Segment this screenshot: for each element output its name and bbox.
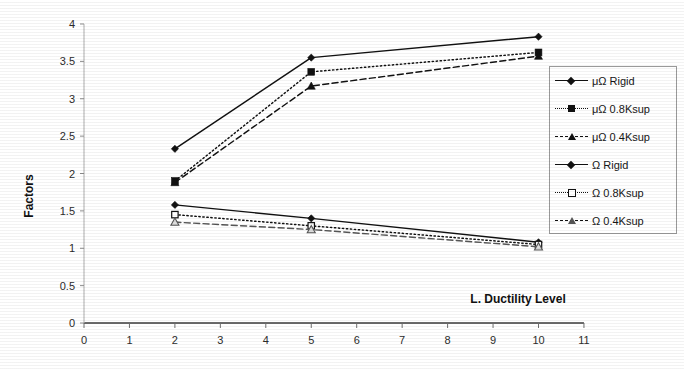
chart-series <box>171 201 542 246</box>
legend-swatch-solid-diamond-2 <box>555 159 588 171</box>
chart-series <box>171 52 543 186</box>
x-tick-label: 3 <box>217 334 223 346</box>
y-tick-label: 2 <box>69 168 75 180</box>
chart-series <box>171 33 542 152</box>
series-line <box>175 37 539 149</box>
legend-label: μΩ 0.4Ksup <box>592 131 650 143</box>
y-tick-label: 3.5 <box>60 55 75 67</box>
data-point-marker <box>171 201 178 208</box>
y-tick-label: 0 <box>69 317 75 329</box>
y-tick-label: 4 <box>69 18 75 30</box>
legend-item: Ω 0.4Ksup <box>550 207 676 235</box>
series-line <box>175 222 539 247</box>
x-tick-label: 11 <box>578 334 589 346</box>
x-tick-label: 7 <box>399 334 405 346</box>
legend-item: Ω 0.8Ksup <box>550 179 676 207</box>
legend-swatch-dashed-triangle-open <box>555 215 588 227</box>
x-tick-label: 1 <box>126 334 132 346</box>
data-point-marker <box>308 215 315 222</box>
legend-label: μΩ 0.8Ksup <box>592 103 650 115</box>
chart-series <box>172 49 542 184</box>
legend-item: μΩ 0.8Ksup <box>550 95 676 123</box>
chart-figure: 00.511.522.533.5401234567891011FactorsL.… <box>0 0 684 369</box>
x-tick-label: 8 <box>445 334 451 346</box>
legend-swatch-solid-diamond <box>555 75 588 87</box>
data-point-marker <box>308 68 315 75</box>
legend-swatch-dashed-triangle <box>555 131 588 143</box>
x-tick-label: 2 <box>172 334 178 346</box>
x-tick-label: 10 <box>532 334 544 346</box>
legend-label: Ω Rigid <box>592 159 628 171</box>
y-tick-label: 2.5 <box>60 130 75 142</box>
legend-item: Ω Rigid <box>550 151 676 179</box>
y-tick-label: 3 <box>69 93 75 105</box>
y-tick-label: 1 <box>69 242 75 254</box>
legend-label: μΩ Rigid <box>592 75 635 87</box>
x-axis-title: L. Ductility Level <box>470 292 565 306</box>
series-line <box>175 52 539 181</box>
legend-swatch-dotted-square <box>555 103 588 115</box>
legend-item: μΩ 0.4Ksup <box>550 123 676 151</box>
legend-label: Ω 0.4Ksup <box>592 215 644 227</box>
series-line <box>175 205 539 242</box>
series-line <box>175 215 539 245</box>
series-line <box>175 56 539 182</box>
y-tick-label: 1.5 <box>60 205 75 217</box>
y-tick-label: 0.5 <box>60 280 75 292</box>
x-tick-label: 6 <box>354 334 360 346</box>
x-tick-label: 5 <box>308 334 314 346</box>
legend-item: μΩ Rigid <box>550 67 676 95</box>
y-axis-title: Factors <box>22 174 36 218</box>
x-tick-label: 0 <box>81 334 87 346</box>
x-tick-label: 9 <box>490 334 496 346</box>
chart-legend: μΩ Rigid μΩ 0.8Ksup μΩ 0.4Ksup Ω Rigid Ω… <box>549 66 677 234</box>
data-point-marker <box>535 33 542 40</box>
data-point-marker <box>172 211 178 217</box>
x-tick-label: 4 <box>263 334 269 346</box>
legend-label: Ω 0.8Ksup <box>592 187 644 199</box>
legend-swatch-dotted-square-open <box>555 187 588 199</box>
